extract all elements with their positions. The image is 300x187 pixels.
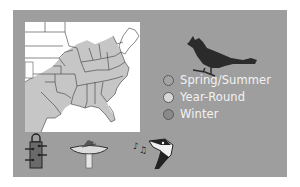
range-map [25, 22, 140, 132]
svg-text:♪: ♪ [133, 141, 139, 151]
tube-feeder-icon [23, 133, 49, 169]
bird-bath-icon [68, 137, 110, 169]
legend-item-winter: Winter [163, 106, 271, 122]
spring-summer-swatch-icon [163, 75, 174, 86]
range-card: Spring/Summer Year-Round Winter ♪ ♫ [13, 10, 287, 177]
us-map-graphic [25, 22, 140, 132]
legend-label: Year-Round [180, 90, 245, 104]
legend-label: Spring/Summer [180, 73, 271, 87]
legend-label: Winter [180, 107, 219, 121]
svg-text:♫: ♫ [139, 145, 147, 155]
winter-swatch-icon [163, 109, 174, 120]
year-round-swatch-icon [163, 92, 174, 103]
bird-song-icon: ♪ ♫ [131, 135, 177, 171]
legend: Spring/Summer Year-Round Winter [163, 72, 271, 123]
legend-item-year-round: Year-Round [163, 89, 271, 105]
legend-item-spring-summer: Spring/Summer [163, 72, 271, 88]
